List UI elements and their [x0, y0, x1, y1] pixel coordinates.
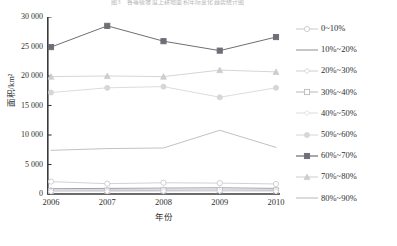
x-tick-label: 2007: [99, 198, 116, 207]
legend-marker-icon: [296, 86, 318, 98]
legend-label: 10%~20%: [321, 45, 357, 54]
legend-item[interactable]: 30%~40%: [296, 82, 397, 103]
series-line: [48, 84, 278, 100]
y-axis-tick-labels: 05 00010 00015 00020 00025 00030 000: [0, 0, 43, 246]
legend-marker-icon: [296, 44, 318, 56]
chart-legend: 0~10%10%~20%20%~30%30%~40%40%~50%50%~60%…: [296, 18, 397, 209]
legend-label: 0~10%: [321, 24, 345, 33]
y-axis-title: 面积/km²: [7, 61, 16, 121]
series-line: [51, 130, 276, 150]
chart-figure: 图3 各等级坡度上耕地面积年际变化趋势统计图 05 00010 00015 00…: [0, 0, 397, 246]
chart-title: 图3 各等级坡度上耕地面积年际变化趋势统计图: [48, 0, 308, 6]
legend-marker-icon: [296, 23, 318, 35]
legend-label: 80%~90%: [321, 194, 357, 203]
x-axis-title: 年份: [47, 213, 280, 222]
legend-label: 70%~80%: [321, 172, 357, 181]
x-tick-label: 2009: [211, 198, 228, 207]
legend-label: 60%~70%: [321, 151, 357, 160]
legend-marker-icon: [296, 171, 318, 183]
legend-marker-icon: [296, 107, 318, 119]
legend-item[interactable]: 10%~20%: [296, 39, 397, 60]
plot-area: [47, 17, 280, 194]
legend-label: 50%~60%: [321, 130, 357, 139]
y-tick-label: 15 000: [21, 102, 43, 110]
legend-item[interactable]: 40%~50%: [296, 103, 397, 124]
x-tick-label: 2006: [43, 198, 60, 207]
legend-item[interactable]: 70%~80%: [296, 166, 397, 187]
legend-item[interactable]: 50%~60%: [296, 124, 397, 145]
legend-item[interactable]: 80%~90%: [296, 188, 397, 209]
legend-item[interactable]: 60%~70%: [296, 145, 397, 166]
y-tick-label: 10 000: [21, 131, 43, 139]
legend-item[interactable]: 20%~30%: [296, 60, 397, 81]
y-tick-label: 30 000: [21, 13, 43, 21]
legend-marker-icon: [296, 65, 318, 77]
series-line: [48, 67, 279, 79]
y-tick-label: 5 000: [25, 161, 43, 169]
y-tick-label: 20 000: [21, 72, 43, 80]
legend-label: 40%~50%: [321, 109, 357, 118]
series-line: [48, 179, 278, 187]
legend-marker-icon: [296, 129, 318, 141]
series-line: [48, 23, 278, 53]
legend-label: 20%~30%: [321, 66, 357, 75]
legend-label: 30%~40%: [321, 88, 357, 97]
x-tick-label: 2008: [155, 198, 172, 207]
plot-canvas: [47, 17, 282, 197]
x-tick-label: 2010: [268, 198, 285, 207]
legend-marker-icon: [296, 192, 318, 204]
legend-item[interactable]: 0~10%: [296, 18, 397, 39]
legend-marker-icon: [296, 150, 318, 162]
y-tick-label: 25 000: [21, 43, 43, 51]
